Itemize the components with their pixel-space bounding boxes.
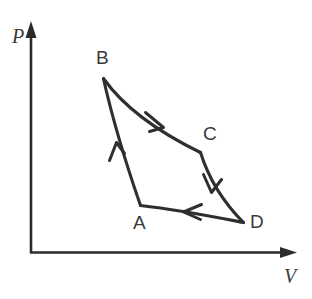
pv-diagram-figure: P V A B C D [0, 0, 312, 299]
pv-diagram-canvas [0, 0, 312, 299]
volume-axis-arrowhead [280, 247, 297, 258]
process-path-cd [201, 153, 244, 223]
process-path-bc [104, 79, 201, 153]
vertex-label-b: B [96, 48, 109, 67]
vertex-label-c: C [203, 124, 217, 143]
volume-axis-label: V [284, 266, 296, 286]
cycle-path-group [104, 79, 244, 223]
vertex-label-d: D [250, 212, 264, 231]
pressure-axis-label: P [12, 26, 24, 46]
vertex-label-a: A [133, 213, 146, 232]
pressure-axis-arrowhead [26, 21, 37, 38]
